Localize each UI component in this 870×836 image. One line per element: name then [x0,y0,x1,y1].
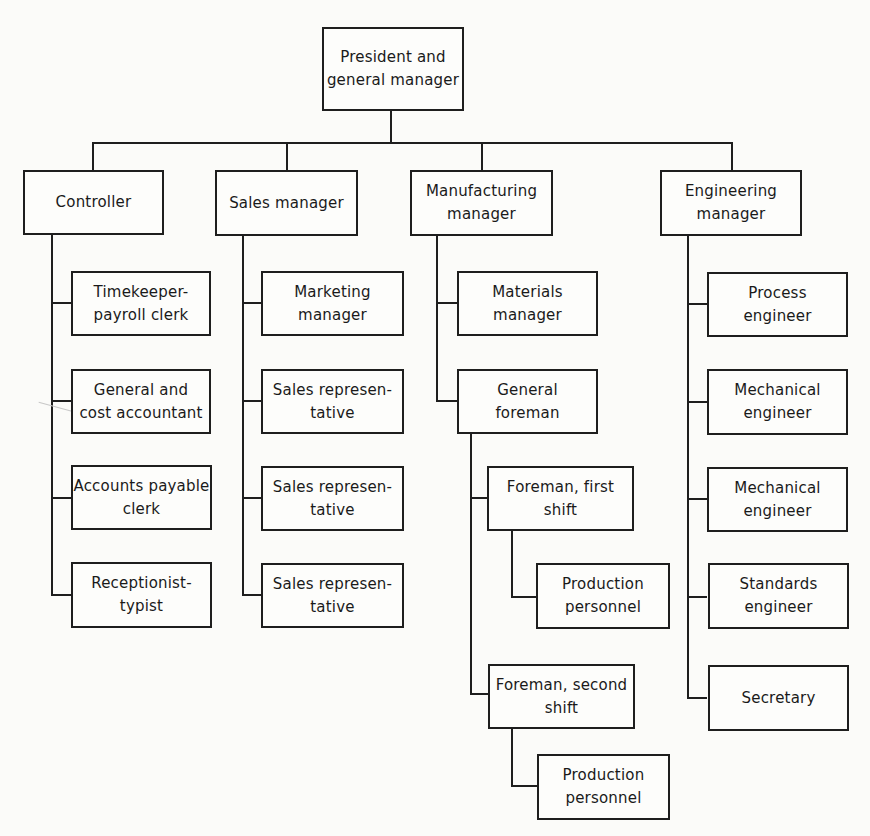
node-label: Controller [56,191,132,214]
node-label: Manufacturing [426,180,537,203]
node-label: Materials [492,281,563,304]
node-production-personnel-second: Production personnel [537,754,670,820]
node-label: Foreman, first [507,476,614,499]
node-label: General and [94,379,188,402]
connector-sales-spine [242,235,244,596]
node-sales-representative-3: Sales represen- tative [261,563,404,628]
node-label: engineer [744,596,812,619]
node-label: Mechanical [734,477,820,500]
connector-controller-r2 [51,400,71,402]
node-label: General [497,379,558,402]
node-label: payroll clerk [94,304,189,327]
node-label: manager [298,304,367,327]
connector-controller-r1 [51,302,71,304]
node-label: Process [748,282,806,305]
node-label: general manager [327,69,459,92]
node-label: tative [310,499,354,522]
node-label: Marketing [294,281,371,304]
node-label: manager [697,203,766,226]
connector-controller-r4 [51,594,71,596]
connector-controller-spine [51,234,53,596]
node-production-personnel-first: Production personnel [536,563,670,629]
connector-engineering-r5 [687,697,707,699]
node-label: clerk [123,498,161,521]
node-president: President and general manager [322,27,464,111]
connector-manufacturing-r1 [436,302,457,304]
connector-sales-r1 [242,302,262,304]
node-label: tative [310,402,354,425]
node-label: Mechanical [734,379,820,402]
connector-sales-drop [286,142,288,171]
connector-second-shift-r1 [511,785,537,787]
node-standards-engineer: Standards engineer [708,563,849,629]
connector-engineering-r2 [687,401,707,403]
connector-first-shift-stem [511,530,513,598]
node-receptionist-typist: Receptionist- typist [71,562,212,628]
connector-sales-r2 [242,400,262,402]
node-secretary: Secretary [708,665,849,731]
node-label: Sales manager [229,192,344,215]
node-label: manager [447,203,516,226]
node-accounts-payable-clerk: Accounts payable clerk [71,465,212,530]
node-general-cost-accountant: General and cost accountant [71,369,211,434]
connector-president-stem [390,110,392,144]
node-sales-representative-2: Sales represen- tative [261,466,404,531]
connector-second-shift-stem [511,728,513,787]
node-controller: Controller [23,170,164,235]
node-marketing-manager: Marketing manager [261,271,404,336]
node-foreman-second-shift: Foreman, second shift [488,664,635,729]
connector-controller-drop [92,142,94,171]
node-foreman-first-shift: Foreman, first shift [487,466,634,531]
node-label: foreman [495,402,559,425]
node-label: cost accountant [79,402,202,425]
node-process-engineer: Process engineer [707,272,848,337]
node-label: Production [563,764,645,787]
node-timekeeper-payroll-clerk: Timekeeper- payroll clerk [71,271,211,336]
node-mechanical-engineer-2: Mechanical engineer [707,467,848,532]
node-sales-representative-1: Sales represen- tative [261,369,404,434]
node-label: engineer [743,500,811,523]
connector-sales-r4 [242,594,262,596]
node-label: Foreman, second [496,674,628,697]
connector-engineering-r4 [687,596,707,598]
node-label: Accounts payable [73,475,209,498]
node-label: Timekeeper- [94,281,189,304]
connector-foreman-r1 [470,497,488,499]
node-engineering-manager: Engineering manager [660,170,802,236]
node-label: Engineering [685,180,777,203]
node-label: typist [120,595,163,618]
node-general-foreman: General foreman [457,369,598,434]
connector-top-bus [92,142,733,144]
connector-foreman-r2 [470,693,488,695]
connector-manufacturing-drop [481,142,483,171]
node-label: Sales represen- [273,379,392,402]
connector-engineering-r1 [687,303,707,305]
node-label: tative [310,596,354,619]
node-label: Secretary [742,687,816,710]
connector-manufacturing-spine [436,235,438,402]
node-label: shift [544,499,577,522]
connector-manufacturing-r2 [436,400,457,402]
connector-foreman-spine [470,433,472,695]
node-label: Production [562,573,644,596]
node-label: Receptionist- [91,572,192,595]
node-label: engineer [743,402,811,425]
node-label: President and [340,46,446,69]
node-sales-manager: Sales manager [215,170,358,236]
node-label: engineer [743,305,811,328]
node-manufacturing-manager: Manufacturing manager [410,170,553,236]
node-label: personnel [565,787,641,810]
node-label: Standards [740,573,818,596]
connector-first-shift-r1 [511,596,537,598]
node-label: personnel [565,596,641,619]
connector-controller-r3 [51,497,71,499]
connector-engineering-drop [731,142,733,171]
node-materials-manager: Materials manager [457,271,598,336]
connector-sales-r3 [242,497,262,499]
node-label: shift [545,697,578,720]
node-label: manager [493,304,562,327]
node-label: Sales represen- [273,573,392,596]
node-label: Sales represen- [273,476,392,499]
node-mechanical-engineer-1: Mechanical engineer [707,369,848,435]
connector-engineering-r3 [687,498,707,500]
